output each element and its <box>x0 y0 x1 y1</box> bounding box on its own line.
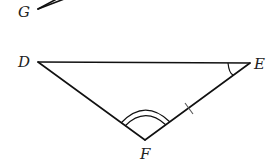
label-e: E <box>253 55 265 73</box>
side-df <box>38 62 145 140</box>
side-ef <box>145 63 250 140</box>
triangle-diagram: G D E F <box>0 0 274 163</box>
label-f: F <box>139 145 151 163</box>
angle-e-arc <box>228 63 233 75</box>
partial-triangle-g <box>38 0 72 9</box>
label-d: D <box>17 53 30 71</box>
segment-g-upper <box>38 0 72 9</box>
triangle-def <box>38 62 250 140</box>
side-ef-tick <box>185 103 193 114</box>
angle-f-arc-outer <box>121 110 170 123</box>
angle-f-arc-inner <box>125 116 166 126</box>
label-g: G <box>18 3 30 21</box>
side-de <box>38 62 250 63</box>
